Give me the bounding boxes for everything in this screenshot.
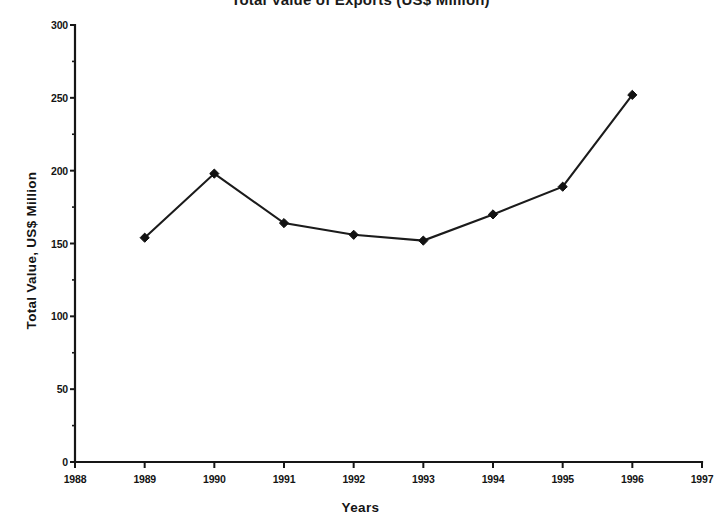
x-tick-label: 1994 bbox=[482, 473, 505, 485]
x-axis-title: Years bbox=[0, 500, 721, 515]
x-tick-label: 1997 bbox=[691, 473, 714, 485]
x-tick-label: 1996 bbox=[621, 473, 644, 485]
plot-area bbox=[0, 0, 721, 532]
x-tick-label: 1991 bbox=[273, 473, 296, 485]
y-tick-label: 0 bbox=[28, 456, 68, 468]
x-tick-label: 1990 bbox=[203, 473, 226, 485]
data-point-marker bbox=[419, 236, 428, 245]
y-tick-label: 250 bbox=[28, 92, 68, 104]
x-tick-label: 1992 bbox=[342, 473, 365, 485]
chart-container: Total Value of Exports (US$ Million) 050… bbox=[0, 0, 721, 532]
data-point-marker bbox=[349, 230, 358, 239]
y-tick-label: 50 bbox=[28, 383, 68, 395]
x-tick-label: 1988 bbox=[64, 473, 87, 485]
y-axis-title: Total Value, US$ Million bbox=[24, 156, 39, 346]
data-point-markers bbox=[140, 90, 637, 245]
x-tick-label: 1993 bbox=[412, 473, 435, 485]
data-series-line bbox=[145, 95, 633, 241]
y-tick-label: 300 bbox=[28, 19, 68, 31]
x-tick-label: 1989 bbox=[133, 473, 156, 485]
x-tick-label: 1995 bbox=[551, 473, 574, 485]
data-point-marker bbox=[488, 210, 497, 219]
axes-group bbox=[75, 25, 702, 462]
